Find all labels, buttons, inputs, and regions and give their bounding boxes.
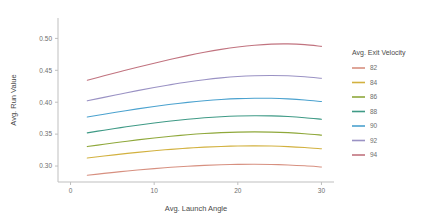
legend-label-84[interactable]: 84 bbox=[370, 79, 378, 86]
y-tick-label: 0.35 bbox=[39, 130, 52, 137]
legend-label-82[interactable]: 82 bbox=[370, 64, 378, 71]
chart-container: 0.300.350.400.450.50 0102030 Avg. Run Va… bbox=[0, 0, 444, 218]
x-tick-label: 10 bbox=[151, 187, 159, 194]
x-axis-title: Avg. Launch Angle bbox=[165, 204, 227, 213]
y-tick-label: 0.30 bbox=[39, 162, 52, 169]
y-tick-label: 0.50 bbox=[39, 35, 52, 42]
legend-title: Avg. Exit Velocity bbox=[352, 49, 406, 57]
legend-label-86[interactable]: 86 bbox=[370, 93, 378, 100]
legend-label-94[interactable]: 94 bbox=[370, 151, 378, 158]
y-axis-title: Avg. Run Value bbox=[9, 74, 18, 125]
legend-label-92[interactable]: 92 bbox=[370, 137, 378, 144]
legend-label-88[interactable]: 88 bbox=[370, 108, 378, 115]
x-tick-label: 20 bbox=[234, 187, 242, 194]
chart-background bbox=[0, 0, 444, 218]
y-tick-label: 0.45 bbox=[39, 67, 52, 74]
line-chart: 0.300.350.400.450.50 0102030 Avg. Run Va… bbox=[0, 0, 444, 218]
x-tick-label: 30 bbox=[318, 187, 326, 194]
x-tick-label: 0 bbox=[69, 187, 73, 194]
y-tick-label: 0.40 bbox=[39, 99, 52, 106]
legend-label-90[interactable]: 90 bbox=[370, 122, 378, 129]
